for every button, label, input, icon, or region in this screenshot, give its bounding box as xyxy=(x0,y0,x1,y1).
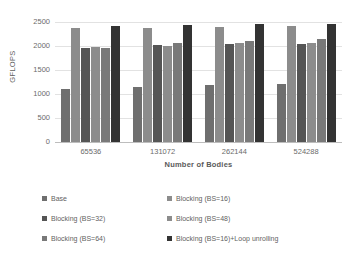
bar xyxy=(235,43,244,142)
bar xyxy=(327,24,336,142)
x-axis-tick-label: 524288 xyxy=(270,147,342,156)
y-axis-tick-label: 2500 xyxy=(14,18,50,26)
y-axis-tick-label: 2000 xyxy=(14,42,50,50)
bar xyxy=(205,85,214,142)
bar xyxy=(101,48,110,142)
bar-group xyxy=(199,22,271,142)
legend-item[interactable]: Blocking (BS=16)+Loop unrolling xyxy=(167,235,332,242)
bar xyxy=(297,44,306,142)
bar xyxy=(277,84,286,142)
bar-group xyxy=(55,22,127,142)
bar-chart: GFLOPS 05001000150020002500 655361310722… xyxy=(0,0,350,255)
legend-swatch-icon xyxy=(42,196,47,201)
gridline xyxy=(55,142,342,143)
legend-label: Blocking (BS=32) xyxy=(51,215,105,222)
bar-group xyxy=(127,22,199,142)
legend-item[interactable]: Blocking (BS=64) xyxy=(42,235,167,242)
legend-label: Base xyxy=(51,195,67,202)
legend-swatch-icon xyxy=(167,236,172,241)
bar-groups xyxy=(55,22,342,142)
legend-swatch-icon xyxy=(42,216,47,221)
legend-label: Blocking (BS=16)+Loop unrolling xyxy=(176,235,278,242)
plot-area: GFLOPS 05001000150020002500 655361310722… xyxy=(0,0,350,178)
bar xyxy=(111,26,120,142)
chart-legend: BaseBlocking (BS=16)Blocking (BS=32)Bloc… xyxy=(42,188,332,248)
legend-label: Blocking (BS=64) xyxy=(51,235,105,242)
bar xyxy=(215,27,224,142)
bar xyxy=(317,39,326,142)
y-axis-tick-label: 1500 xyxy=(14,66,50,74)
legend-label: Blocking (BS=48) xyxy=(176,215,230,222)
bar xyxy=(143,28,152,142)
x-axis-ticks: 65536131072262144524288 xyxy=(55,147,342,156)
bar xyxy=(245,41,254,142)
bar xyxy=(287,26,296,142)
x-axis-tick-label: 65536 xyxy=(55,147,127,156)
bar xyxy=(91,47,100,142)
x-axis-tick-label: 131072 xyxy=(127,147,199,156)
bar xyxy=(225,44,234,142)
legend-item[interactable]: Base xyxy=(42,195,167,202)
bar xyxy=(153,45,162,142)
legend-item[interactable]: Blocking (BS=32) xyxy=(42,215,167,222)
legend-item[interactable]: Blocking (BS=48) xyxy=(167,215,332,222)
bar xyxy=(163,46,172,142)
bar xyxy=(61,89,70,142)
legend-label: Blocking (BS=16) xyxy=(176,195,230,202)
legend-swatch-icon xyxy=(167,216,172,221)
bar xyxy=(81,48,90,142)
y-axis-tick-label: 500 xyxy=(14,114,50,122)
bar xyxy=(255,24,264,142)
bar xyxy=(133,87,142,142)
y-axis-tick-label: 0 xyxy=(14,138,50,146)
x-axis-tick-label: 262144 xyxy=(199,147,271,156)
legend-swatch-icon xyxy=(167,196,172,201)
bar xyxy=(71,28,80,142)
legend-item[interactable]: Blocking (BS=16) xyxy=(167,195,332,202)
legend-swatch-icon xyxy=(42,236,47,241)
bar xyxy=(173,43,182,142)
bar-group xyxy=(270,22,342,142)
bar xyxy=(307,43,316,142)
y-axis-tick-label: 1000 xyxy=(14,90,50,98)
bar xyxy=(183,25,192,142)
x-axis-title: Number of Bodies xyxy=(55,160,342,169)
